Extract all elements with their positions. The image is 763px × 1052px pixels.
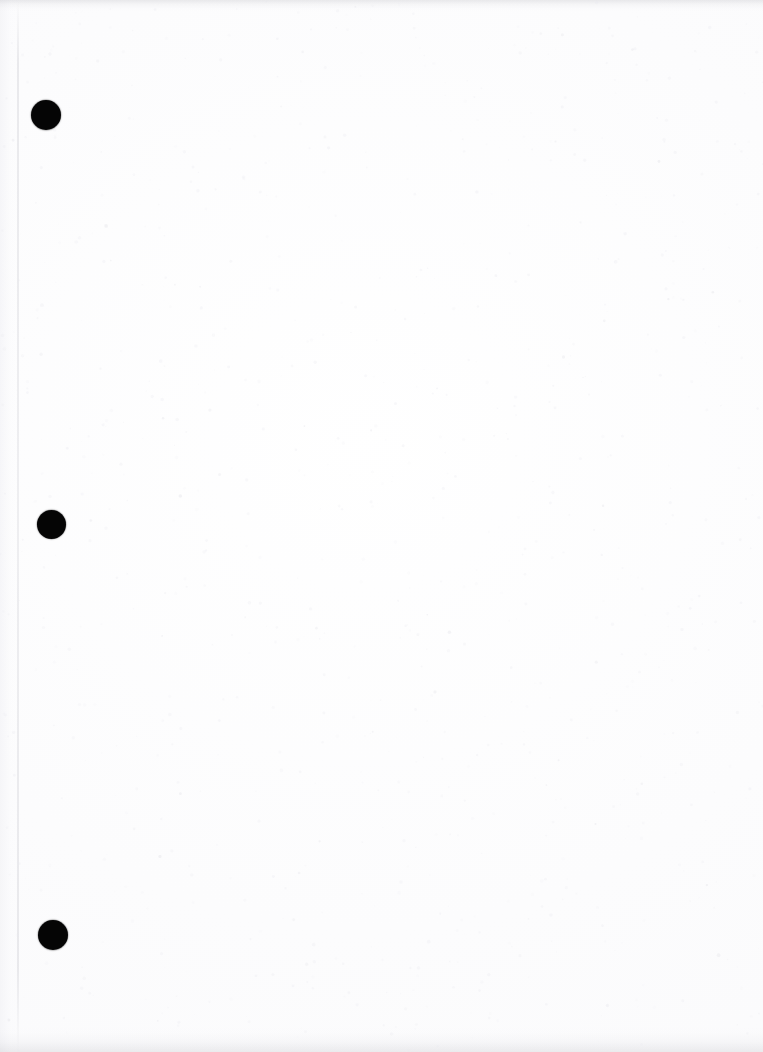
scanned-page [0, 0, 763, 1052]
paper-tint-overlay [0, 0, 763, 1052]
bullet-mark-1 [31, 100, 61, 130]
left-gutter-shade [0, 0, 18, 1052]
scan-speckle-noise [0, 0, 763, 1052]
bullet-mark-2 [37, 510, 66, 539]
bottom-edge-smudge-band [0, 1026, 763, 1052]
gutter-line [17, 0, 19, 1052]
top-edge-smudge-band [0, 0, 763, 12]
bullet-mark-3 [38, 920, 68, 950]
